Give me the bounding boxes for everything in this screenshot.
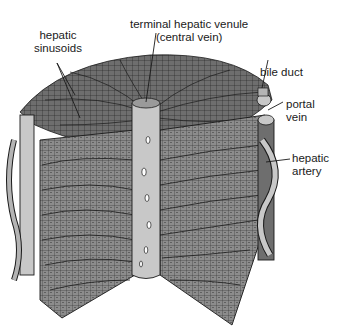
label-line: sinusoids: [34, 42, 82, 55]
label-line: artery: [292, 165, 329, 178]
label-bile-duct: bile duct: [260, 66, 303, 79]
label-line: vein: [286, 111, 315, 124]
lobule-right-face: [160, 115, 265, 325]
label-line: portal: [286, 98, 315, 111]
label-line: hepatic: [292, 152, 329, 165]
lobule-left-face: [40, 130, 135, 318]
label-hepatic-artery: hepatic artery: [292, 152, 329, 178]
label-line: (central vein): [130, 31, 248, 44]
label-terminal-hepatic-venule: terminal hepatic venule (central vein): [130, 18, 248, 44]
label-hepatic-sinusoids: hepatic sinusoids: [34, 29, 82, 55]
label-portal-vein: portal vein: [286, 98, 315, 124]
left-portal-triad: [9, 115, 34, 280]
central-vein: [132, 98, 160, 279]
label-line: terminal hepatic venule: [130, 18, 248, 31]
right-portal-triad: [257, 88, 275, 260]
label-line: hepatic: [34, 29, 82, 42]
